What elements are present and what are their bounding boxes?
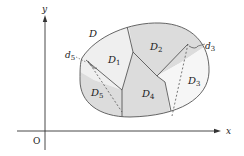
region-d-label: D: [88, 28, 97, 39]
diameter-d5-label: d5: [65, 50, 75, 62]
x-axis-label: x: [226, 126, 231, 136]
region-partition-diagram: y x O D D1 D2 D3 D4 D5 d3 d5: [0, 0, 244, 156]
subregion-d1: [60, 10, 133, 90]
y-axis-arrow-icon: [43, 15, 47, 22]
y-axis-label: y: [41, 4, 48, 14]
subregions: [60, 10, 230, 130]
origin-label: O: [33, 136, 40, 146]
x-axis-arrow-icon: [214, 129, 221, 133]
diameter-d3-label: d3: [205, 41, 215, 53]
